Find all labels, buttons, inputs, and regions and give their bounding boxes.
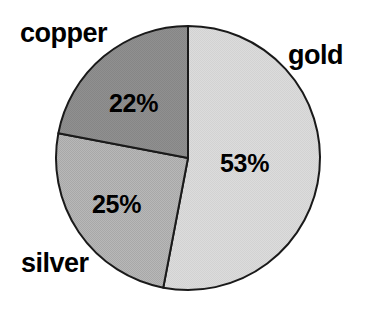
pie-value-copper: 22% [109, 91, 158, 116]
pie-label-copper: copper [20, 20, 107, 47]
pie-value-gold: 53% [220, 151, 269, 176]
pie-label-silver: silver [21, 250, 89, 277]
pie-value-silver: 25% [92, 192, 141, 217]
pie-label-gold: gold [288, 42, 343, 69]
pie-chart: copper gold silver 53% 25% 22% [0, 0, 371, 317]
pie-slices [56, 26, 320, 290]
